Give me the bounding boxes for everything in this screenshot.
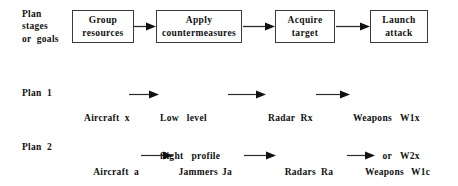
node-line: Ja [222,166,246,179]
arrow-stage-3-to-4 [336,22,370,31]
stage-box-launch-attack[interactable]: Launch attack [370,10,428,43]
node-line: Weapons [358,166,404,179]
node-line: Weapons [348,112,392,125]
stage-box-label: Apply countermeasures [162,14,236,38]
node-line: Aircraft a [84,166,139,179]
node-line: W1x [400,112,434,125]
stage-box-label: Launch attack [382,14,415,38]
stage-box-label: Acquire target [288,14,323,38]
arrow-stage-2-to-3 [243,22,275,31]
plan2-node-weapon-ids: W1c W2c [411,141,445,186]
node-line: W1c [411,166,445,179]
stage-box-acquire-target[interactable]: Acquire target [275,10,335,43]
node-line: Low level [160,112,220,125]
node-line: Aircraft x [84,112,130,125]
node-line: Radar Rx [268,112,313,125]
row-label-plan-stages: Plan stages or goals [22,8,78,45]
arrow-plan1-2-to-3 [228,90,266,99]
plan2-node-radar-comms-ids: Ra Rb Cabc [321,141,355,186]
arrow-stage-1-to-2 [134,22,156,31]
node-line: Jammers [170,166,218,179]
node-line: Ra [321,166,355,179]
row-label-plan-1: Plan 1 [22,87,80,99]
arrow-plan1-3-to-4 [316,90,350,99]
stage-box-group-resources[interactable]: Group resources [72,10,134,43]
stage-box-label: Group resources [82,14,123,38]
arrow-plan1-1-to-2 [129,90,159,99]
plan2-node-jammer-ids: Ja Jb [222,141,246,186]
plan2-node-aircraft-a-and-b: Aircraft a and b [84,141,139,186]
plan2-node-jammers: Jammers and [170,141,218,186]
figure-canvas: Plan stages or goals Group resources App… [0,0,458,186]
node-line: Radars [272,166,316,179]
plan2-node-weapons: Weapons or [358,141,404,186]
plan2-node-radars-comms: Radars and Comms [272,141,316,186]
stage-box-apply-countermeasures[interactable]: Apply countermeasures [156,10,242,43]
row-label-plan-2: Plan 2 [22,141,80,153]
arrow-plan2-1-to-2 [141,151,173,160]
